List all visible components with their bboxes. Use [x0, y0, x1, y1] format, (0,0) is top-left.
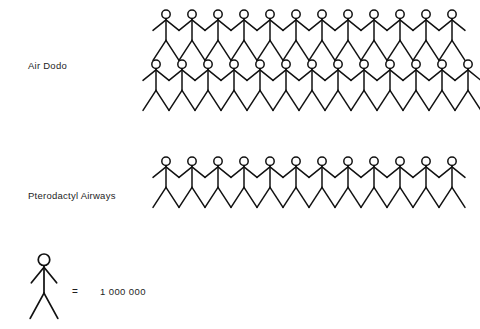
legend-unit-value: 1 000 000	[100, 286, 146, 297]
person-icon-group	[150, 155, 480, 215]
row-label-air-dodo: Air Dodo	[28, 60, 67, 71]
person-icon-group	[140, 58, 480, 118]
person-icon	[22, 252, 68, 314]
pictogram-chart: Air Dodo Pterodactyl Airways = 1 000 000	[0, 0, 480, 329]
pictogram-row-pterodactyl-airways	[150, 155, 480, 215]
legend-person-icon	[22, 252, 68, 314]
pictogram-row-air-dodo-line2	[140, 58, 480, 118]
legend-equals-sign: =	[72, 286, 78, 297]
row-label-pterodactyl-airways: Pterodactyl Airways	[28, 190, 116, 201]
